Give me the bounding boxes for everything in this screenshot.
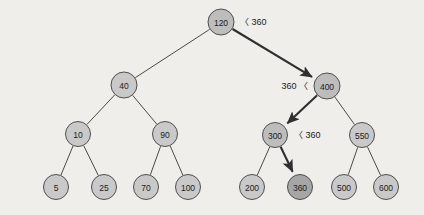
search-path-arrow — [287, 95, 317, 123]
tree-node-360[interactable]: 360 — [288, 175, 313, 200]
tree-node-40[interactable]: 40 — [111, 72, 137, 98]
tree-nodes: 12040400109030055052570100200360500600 — [44, 9, 399, 200]
tree-node-400[interactable]: 400 — [314, 73, 340, 99]
tree-edge — [367, 147, 380, 175]
tree-node-100[interactable]: 100 — [176, 175, 201, 200]
tree-node-300[interactable]: 300 — [263, 123, 288, 148]
tree-node-500[interactable]: 500 — [332, 175, 357, 200]
comparison-annotations: 〈 360360 〈〈 360 — [240, 17, 321, 140]
comparison-annotation-n400: 360 〈 — [281, 81, 308, 91]
tree-edge — [257, 147, 269, 175]
node-label: 200 — [245, 183, 259, 193]
tree-edge — [133, 95, 157, 124]
node-label: 600 — [379, 183, 393, 193]
node-label: 500 — [337, 183, 351, 193]
search-path-arrow — [233, 29, 312, 77]
node-label: 90 — [160, 130, 170, 140]
tree-node-25[interactable]: 25 — [92, 175, 117, 200]
node-label: 550 — [355, 131, 369, 141]
tree-node-600[interactable]: 600 — [374, 175, 399, 200]
tree-edge — [84, 146, 99, 176]
tree-edge — [87, 95, 115, 125]
tree-node-550[interactable]: 550 — [350, 123, 375, 148]
tree-edge — [150, 146, 160, 175]
tree-node-90[interactable]: 90 — [153, 122, 178, 147]
tree-edge — [335, 97, 355, 124]
node-label: 25 — [99, 183, 109, 193]
tree-canvas: 12040400109030055052570100200360500600 〈… — [0, 0, 424, 215]
tree-node-10[interactable]: 10 — [66, 122, 91, 147]
tree-edges — [61, 29, 381, 175]
comparison-annotation-n120: 〈 360 — [240, 17, 267, 27]
tree-node-120[interactable]: 120 — [208, 9, 234, 35]
node-label: 10 — [73, 130, 83, 140]
tree-edge — [348, 147, 357, 174]
tree-node-70[interactable]: 70 — [134, 175, 159, 200]
node-label: 5 — [54, 183, 59, 193]
tree-node-200[interactable]: 200 — [240, 175, 265, 200]
node-label: 70 — [141, 183, 151, 193]
node-label: 400 — [320, 82, 334, 92]
tree-edge — [170, 146, 183, 175]
tree-edge — [61, 146, 73, 175]
search-path-arrow — [281, 147, 293, 172]
comparison-annotation-n300: 〈 360 — [294, 130, 321, 140]
bst-search-diagram: 12040400109030055052570100200360500600 〈… — [0, 0, 424, 215]
node-label: 100 — [181, 183, 195, 193]
tree-node-5[interactable]: 5 — [44, 175, 69, 200]
tree-edge — [135, 29, 209, 77]
node-label: 360 — [293, 183, 307, 193]
node-label: 120 — [214, 18, 228, 28]
node-label: 40 — [119, 81, 129, 91]
node-label: 300 — [268, 131, 282, 141]
